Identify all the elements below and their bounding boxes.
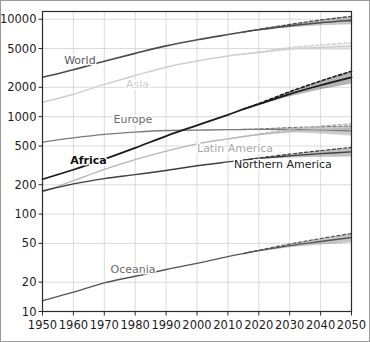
- series-label-world: World: [64, 54, 96, 67]
- series-label-latin-america: Latin America: [197, 142, 273, 155]
- population-log-chart: 1020501002005001000200050001000019501960…: [1, 1, 370, 342]
- series-label-asia: Asia: [126, 78, 149, 91]
- x-axis-tick-label: 1950: [28, 318, 57, 332]
- y-axis-tick-label: 2000: [7, 80, 36, 94]
- x-axis-tick-label: 1970: [90, 318, 119, 332]
- x-axis-tick-label: 2050: [337, 318, 366, 332]
- x-axis-tick-label: 2020: [244, 318, 273, 332]
- x-axis-tick-label: 1990: [151, 318, 180, 332]
- y-axis-tick-label: 5000: [7, 42, 36, 56]
- y-axis-tick-label: 20: [22, 275, 37, 289]
- y-axis-tick-label: 100: [15, 207, 37, 221]
- y-axis-tick-label: 50: [22, 236, 37, 250]
- x-axis-tick-label: 1960: [59, 318, 88, 332]
- y-axis-tick-label: 10: [22, 305, 37, 319]
- tick-labels-layer: 1020501002005001000200050001000019501960…: [1, 12, 366, 331]
- x-axis-tick-label: 2040: [306, 318, 335, 332]
- y-axis-tick-label: 1000: [7, 110, 36, 124]
- series-label-oceania: Oceania: [110, 263, 155, 276]
- y-axis-tick-label: 200: [15, 178, 37, 192]
- y-axis-tick-label: 500: [15, 139, 37, 153]
- x-axis-tick-label: 2030: [275, 318, 304, 332]
- series-label-northern-america: Northern America: [234, 158, 332, 171]
- series-label-africa: Africa: [70, 154, 106, 167]
- x-axis-tick-label: 2000: [182, 318, 211, 332]
- y-axis-tick-label: 10000: [1, 12, 37, 26]
- x-axis-tick-label: 1980: [121, 318, 150, 332]
- population-projection-figure: 1020501002005001000200050001000019501960…: [0, 0, 370, 342]
- series-label-europe: Europe: [114, 113, 153, 126]
- x-axis-tick-label: 2010: [213, 318, 242, 332]
